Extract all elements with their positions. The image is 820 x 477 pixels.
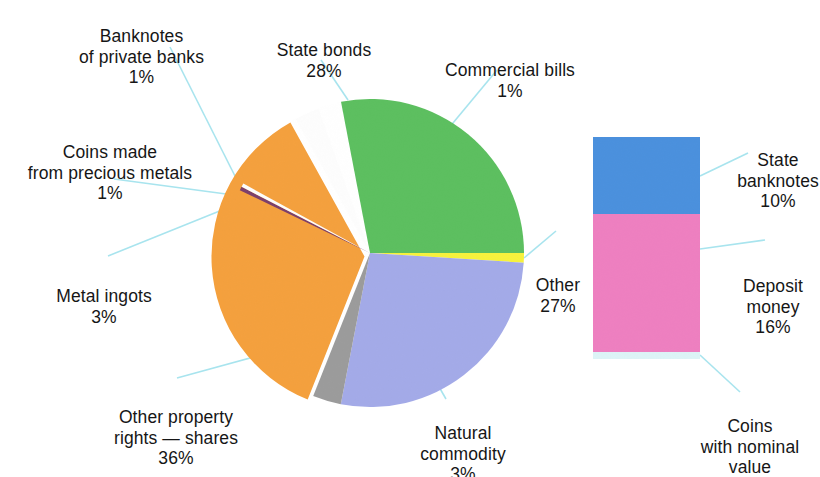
pie-label-coins-precious: Coins made from precious metals 1%	[4, 122, 216, 223]
pie-label-banknotes-private: Banknotes of private banks 1%	[44, 6, 239, 107]
pie-label-other: Other 27%	[512, 255, 604, 336]
pie-label-other-property: Other property rights — shares 36%	[78, 387, 274, 477]
bar-label-deposit-money-pct: 16%	[726, 317, 820, 337]
pie-label-banknotes-private-pct: 1%	[44, 67, 239, 87]
pie-label-metal-ingots-name: Metal ingots	[56, 286, 152, 306]
pie-label-other-name: Other	[536, 275, 580, 295]
pie-chart	[211, 99, 524, 407]
bar-label-coins-nominal: Coins with nominal value 1%	[680, 396, 820, 477]
leader-line-coins-nominal	[700, 355, 740, 392]
pie-label-state-bonds: State bonds 28%	[248, 20, 400, 101]
pie-label-metal-ingots: Metal ingots 3%	[28, 266, 180, 347]
pie-label-state-bonds-name: State bonds	[277, 40, 372, 60]
stacked-bar-chart	[593, 137, 700, 359]
pie-label-commercial-bills: Commercial bills 1%	[425, 40, 595, 121]
pie-label-metal-ingots-pct: 3%	[28, 307, 180, 327]
pie-label-coins-precious-pct: 1%	[4, 183, 216, 203]
pie-label-banknotes-private-name: Banknotes of private banks	[79, 26, 204, 66]
bar-label-state-banknotes: State banknotes 10%	[736, 130, 820, 231]
figure-canvas: Banknotes of private banks 1% State bond…	[0, 0, 820, 477]
leader-line-deposit-money	[700, 240, 765, 249]
bar-label-coins-nominal-name: Coins with nominal value	[701, 416, 799, 477]
pie-label-other-pct: 27%	[512, 296, 604, 316]
bar-label-deposit-money-name: Deposit money	[743, 276, 803, 316]
pie-label-other-property-pct: 36%	[78, 448, 274, 468]
pie-label-commercial-bills-name: Commercial bills	[445, 60, 575, 80]
bar-label-state-banknotes-name: State banknotes	[737, 150, 819, 190]
pie-label-coins-precious-name: Coins made from precious metals	[28, 142, 192, 182]
bar-label-deposit-money: Deposit money 16%	[726, 256, 820, 357]
pie-label-other-property-name: Other property rights — shares	[114, 407, 238, 447]
bar-grain-overlay	[593, 137, 700, 359]
pie-label-natural-commodity-pct: 3%	[398, 464, 528, 477]
bar-label-state-banknotes-pct: 10%	[736, 191, 820, 211]
pie-grain-overlay	[216, 99, 524, 407]
pie-label-state-bonds-pct: 28%	[248, 61, 400, 81]
pie-label-commercial-bills-pct: 1%	[425, 81, 595, 101]
pie-label-natural-commodity: Natural commodity 3%	[398, 403, 528, 477]
pie-label-natural-commodity-name: Natural commodity	[420, 423, 506, 463]
leader-line-other	[524, 231, 556, 258]
